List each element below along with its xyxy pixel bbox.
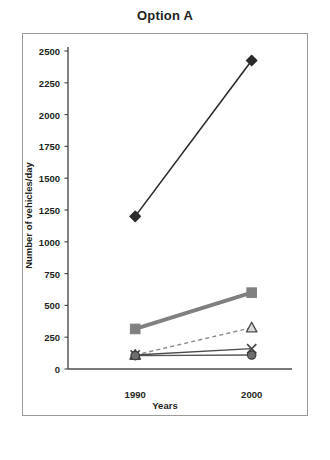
y-axis-tick-label: 2500	[16, 46, 60, 57]
series-diamond	[130, 56, 256, 222]
y-axis-tick-label: 2250	[16, 77, 60, 88]
series-square	[130, 288, 256, 334]
y-axis-tick-label: 500	[16, 300, 60, 311]
y-axis-tick-label: 0	[16, 364, 60, 375]
x-axis-title: Years	[22, 400, 308, 411]
series-layer	[130, 56, 257, 360]
x-axis-tick-label: 2000	[222, 389, 282, 400]
y-axis-tick-label: 250	[16, 332, 60, 343]
y-axis-title: Number of vehicles/day	[23, 136, 34, 296]
x-axis-tick-label: 1990	[105, 389, 165, 400]
axis-layer	[65, 47, 293, 369]
chart-container: Option A 0250500750100012501500175020002…	[0, 0, 330, 460]
y-axis-tick-label: 2000	[16, 109, 60, 120]
